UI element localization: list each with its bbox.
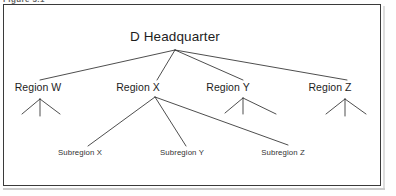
stub-z-right	[345, 99, 366, 114]
node-region-x: Region X	[116, 81, 160, 93]
node-region-y: Region Y	[206, 81, 249, 93]
node-subregion-y: Subregion Y	[160, 148, 204, 157]
edge-x-to-subregion-z	[155, 97, 288, 145]
region-z-stubs	[326, 99, 366, 116]
stub-y-left	[225, 98, 243, 113]
stub-z-left	[326, 99, 345, 114]
edge-root-to-region-y	[175, 50, 243, 80]
edge-root-to-region-z	[175, 50, 347, 80]
node-subregion-x: Subregion X	[58, 148, 102, 157]
edge-x-to-subregion-x	[88, 97, 155, 146]
stub-y-right	[243, 98, 276, 114]
root-branches	[40, 50, 347, 80]
stub-w-right	[40, 99, 60, 114]
edge-root-to-region-w	[40, 50, 175, 80]
region-x-branches	[88, 97, 288, 146]
edge-root-to-region-x	[157, 50, 175, 80]
node-region-z: Region Z	[308, 81, 351, 93]
node-root-headquarter: D Headquarter	[130, 29, 220, 44]
edge-x-to-subregion-y	[155, 97, 186, 146]
stub-w-left	[22, 99, 40, 114]
node-subregion-z: Subregion Z	[261, 148, 305, 157]
region-y-stubs	[225, 98, 276, 114]
region-w-stubs	[22, 99, 60, 116]
node-region-w: Region W	[15, 81, 62, 93]
figure-canvas: Figure 3.1 D H	[0, 0, 396, 196]
